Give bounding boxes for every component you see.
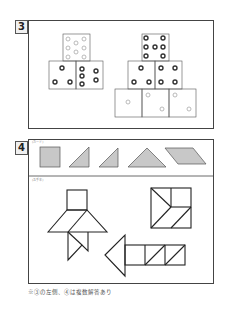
card-triangle-1 (69, 147, 89, 167)
card-parallelogram (165, 148, 206, 164)
card-triangle-2 (99, 148, 118, 167)
tangram-figures (0, 0, 225, 313)
card-triangle-large (128, 148, 166, 167)
caption-note: ※③の左側、④は複数解答あり (28, 288, 112, 296)
card-square (40, 147, 60, 167)
